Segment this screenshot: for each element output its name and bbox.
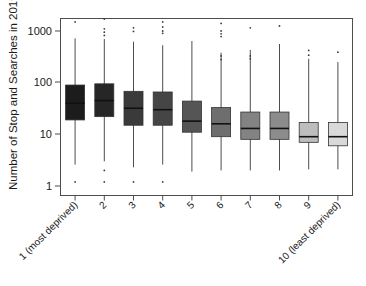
outlier-point: [162, 26, 164, 28]
outlier-point: [133, 181, 135, 183]
outlier-point: [162, 181, 164, 183]
x-tick-label: 1 (most deprived): [17, 199, 80, 262]
outlier-point: [162, 30, 164, 32]
outlier-point: [220, 30, 222, 32]
outlier-point: [103, 170, 105, 172]
outlier-point: [103, 18, 105, 20]
y-tick-label-1: 1: [46, 180, 52, 192]
x-tick-label: 3: [126, 199, 138, 211]
outlier-point: [279, 25, 281, 27]
chart-container: Number of Stop and Searches in 2019 1000…: [0, 0, 366, 286]
outlier-point: [103, 181, 105, 183]
box-rect: [328, 122, 347, 145]
x-tick-label: 7: [243, 199, 255, 211]
outlier-point: [162, 32, 164, 34]
x-axis-group: 1 (most deprived)2345678910 (least depri…: [17, 196, 343, 266]
y-tick-label-10: 10: [40, 128, 52, 140]
outlier-point: [133, 31, 135, 33]
outlier-point: [308, 54, 310, 56]
x-tick-label: 8: [272, 199, 284, 211]
outlier-point: [162, 21, 164, 23]
outlier-point: [103, 31, 105, 33]
box-rect: [299, 122, 318, 142]
box-group: [66, 18, 348, 183]
outlier-point: [133, 27, 135, 29]
outlier-point: [220, 59, 222, 61]
outlier-point: [220, 33, 222, 35]
outlier-point: [103, 35, 105, 37]
outlier-point: [249, 27, 251, 29]
x-tick-label: 2: [97, 199, 109, 211]
x-tick-label: 9: [301, 199, 313, 211]
outlier-point: [103, 28, 105, 30]
box-rect: [153, 92, 172, 125]
y-axis-title: Number of Stop and Searches in 2019: [7, 0, 19, 190]
outlier-point: [220, 55, 222, 57]
outlier-point: [220, 23, 222, 25]
outlier-point: [337, 51, 339, 53]
box-rect: [270, 112, 289, 139]
outlier-point: [308, 50, 310, 52]
y-tick-label-100: 100: [34, 76, 52, 88]
outlier-point: [249, 58, 251, 60]
box-rect: [241, 112, 260, 139]
x-tick-label: 6: [214, 199, 226, 211]
outlier-point: [249, 55, 251, 57]
x-tick-label: 4: [155, 199, 167, 211]
y-tick-label-1000: 1000: [28, 25, 52, 37]
x-tick-label: 5: [185, 199, 197, 211]
boxplot-svg: Number of Stop and Searches in 2019 1000…: [0, 0, 366, 286]
outlier-point: [74, 21, 76, 23]
outlier-point: [220, 36, 222, 38]
box-rect: [212, 108, 231, 137]
outlier-point: [74, 181, 76, 183]
box-rect: [182, 101, 201, 132]
